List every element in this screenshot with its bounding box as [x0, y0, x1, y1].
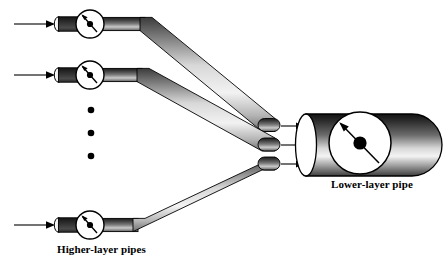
higher-layer-pipes-label: Higher-layer pipes [57, 243, 146, 255]
higher-layer-pipe-3 [14, 157, 280, 239]
pipe-tip-1 [258, 119, 280, 132]
inlet-arrow-1 [14, 20, 55, 28]
pipe-network-diagram: Higher-layer pipes Lower-layer pipe [0, 0, 444, 270]
pipe-segment-3-diagonal [133, 157, 275, 232]
pipe-tip-2 [258, 138, 280, 151]
lower-pipe-mouth [296, 114, 317, 176]
valve-gauge-icon-2 [76, 61, 104, 89]
vertical-ellipsis-icon [88, 107, 95, 160]
inlet-arrow-3 [14, 221, 55, 229]
valve-gauge-icon-3 [76, 211, 104, 239]
diagram-canvas [0, 0, 444, 270]
lower-layer-pipe [296, 112, 443, 176]
valve-gauge-icon-1 [76, 10, 104, 38]
lower-layer-pipe-label: Lower-layer pipe [331, 178, 413, 190]
pipe-tip-3 [258, 157, 280, 170]
valve-gauge-icon-lower [329, 112, 391, 174]
inlet-arrow-2 [14, 71, 55, 79]
